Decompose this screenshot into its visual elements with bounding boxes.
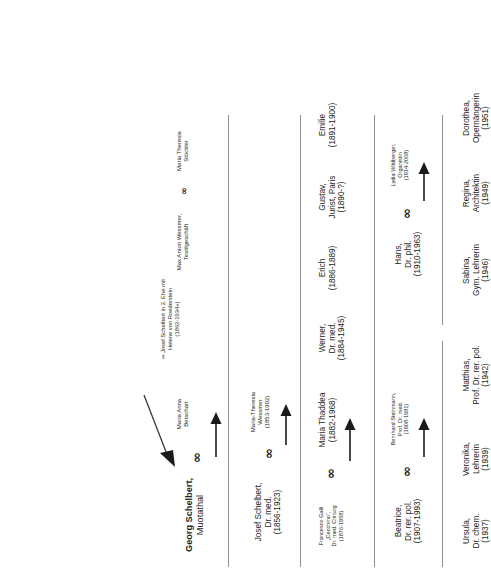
person-name: Maria Theresia: [176, 119, 183, 183]
person-role: Jurist, Paris: [328, 161, 338, 233]
descent-arrow-gen1-left: [210, 411, 220, 457]
person-maria-theresia-stoeckler: Maria Theresia Stöckler: [176, 119, 190, 183]
person-name: Lydia Wildberger,: [390, 127, 397, 203]
person-hans: Hans, Dr. phil. (1910-1963): [394, 223, 423, 285]
marriage-symbol-josef-mariatheresia: ∞: [262, 448, 275, 459]
person-role: Prof. Dr. med.: [397, 377, 404, 461]
note-line-1: ∞ Josef Schelbert in 2. Ehe mit: [160, 239, 167, 399]
person-name: Werner,: [318, 305, 328, 371]
person-name: Francesco Galli: [318, 483, 325, 569]
person-dates: (1907-1993): [413, 481, 423, 561]
generation-divider-4-right: [442, 115, 443, 325]
marriage-symbol-max-maria: ∞: [180, 188, 189, 196]
person-name: Ursula,: [462, 497, 472, 565]
person-dates: (1937): [481, 497, 491, 565]
person-dates: (1949): [481, 157, 491, 229]
person-role: Wessmer: [257, 381, 264, 443]
person-name: Emilie: [318, 89, 328, 161]
descent-arrow-gen4-left: [418, 417, 428, 457]
generation-divider-2: [300, 115, 301, 567]
person-dates: (1876-1958): [338, 483, 345, 569]
person-dates: (1856-1923): [273, 467, 283, 557]
marriage-symbol-francesco-mariathaddea: ∞: [324, 468, 337, 479]
person-name: Sabina,: [462, 227, 472, 313]
person-regina: Regina, Architektin (1949): [462, 157, 491, 229]
person-name: Dorothea,: [462, 75, 472, 161]
person-dates: (1890-?): [337, 161, 347, 233]
person-francesco-galli: Francesco Galli „Cecchino“, Dr. med. Chi…: [318, 483, 344, 569]
person-dates: (1914-2008): [403, 127, 410, 203]
descent-arrow-gen3: [344, 417, 354, 461]
descent-arrow-gen4-right: [418, 161, 428, 201]
generation-divider-4-left: [442, 341, 443, 567]
person-role: Organistin: [397, 127, 404, 203]
person-dates: (1891-1900): [328, 89, 338, 161]
descent-arrow-gen2: [280, 403, 290, 445]
second-marriage-pointer: [142, 389, 178, 469]
person-dates: (1853-1902): [264, 381, 271, 443]
person-bernhard-steinmann: Bernhard Steinmann, Prof. Dr. med. (1908…: [390, 377, 410, 461]
person-dates: (1942): [481, 327, 491, 423]
person-name: Hans,: [394, 223, 404, 285]
person-josef-schelbert: Josef Schelbert, Dr. med. (1856-1923): [254, 467, 283, 557]
person-role: Dr. med.: [328, 305, 338, 371]
person-role: Dr. med. Chirurg: [331, 483, 338, 569]
person-dates: (1951): [481, 75, 491, 161]
generation-divider-3: [374, 115, 375, 567]
person-role: Betschart: [183, 381, 190, 447]
person-name: Matthias,: [462, 327, 472, 423]
person-name: Bernhard Steinmann,: [390, 377, 397, 461]
note-second-marriage: ∞ Josef Schelbert in 2. Ehe mit Helene v…: [160, 239, 182, 399]
person-role: Dr. chem.: [472, 497, 482, 565]
person-name: Georg Schelbert,: [184, 467, 195, 563]
person-name: Josef Schelbert,: [254, 467, 264, 557]
person-role: Lehrerin: [472, 423, 482, 495]
person-role: Opernängerin: [472, 75, 482, 161]
person-role: Prof. Dr. rer. pol.: [472, 327, 482, 423]
person-emilie: Emilie (1891-1900): [318, 89, 337, 161]
person-beatrice: Beatrice, Dr. rer. pol. (1907-1993): [394, 481, 423, 561]
person-role: Dr. phil.: [404, 223, 414, 285]
person-name: Gustav,: [318, 161, 328, 233]
person-matthias: Matthias, Prof. Dr. rer. pol. (1942): [462, 327, 491, 423]
person-dates: (1886-1889): [328, 235, 338, 301]
marriage-symbol-hans-lydia: ∞: [400, 208, 413, 219]
person-dates: (1946): [481, 227, 491, 313]
person-dates: (1910-1963): [413, 223, 423, 285]
person-name: Maria Thaddea: [318, 377, 328, 463]
person-name: Beatrice,: [394, 481, 404, 561]
person-erich: Erich (1886-1889): [318, 235, 337, 301]
person-dates: (1882-1968): [328, 377, 338, 463]
note-line-3: (1862-1934+): [174, 239, 181, 399]
person-maria-thaddea: Maria Thaddea (1882-1968): [318, 377, 337, 463]
person-nickname: „Cecchino“,: [325, 483, 332, 569]
generation-divider-1: [228, 115, 229, 567]
person-role: Gym. Lehrerin: [472, 227, 482, 313]
person-veronika: Veronika, Lehrerin (1939): [462, 423, 491, 495]
person-ursula: Ursula, Dr. chem. (1937): [462, 497, 491, 565]
person-dates: (1884-1945): [337, 305, 347, 371]
person-werner: Werner, Dr. med. (1884-1945): [318, 305, 347, 371]
person-name: Erich: [318, 235, 328, 301]
person-role: Textilgeschäft: [183, 198, 190, 286]
person-maria-theresia-wessmer: Maria-Theresia Wessmer (1853-1902): [250, 381, 271, 443]
person-role: Stöckler: [183, 119, 190, 183]
marriage-symbol-bernhard-beatrice: ∞: [400, 466, 413, 477]
marriage-symbol-georg-maria: ∞: [190, 452, 203, 463]
person-name: Regina,: [462, 157, 472, 229]
note-line-2: Helene von Roederstein: [167, 239, 174, 399]
person-role: Architektin: [472, 157, 482, 229]
person-name: Maria-Theresia: [250, 381, 257, 443]
person-role: Dr. rer. pol.: [404, 481, 414, 561]
person-sabina: Sabina, Gym. Lehrerin (1946): [462, 227, 491, 313]
person-gustav: Gustav, Jurist, Paris (1890-?): [318, 161, 347, 233]
person-role: Dr. med.: [264, 467, 274, 557]
person-dates: (1939): [481, 423, 491, 495]
person-georg-schelbert: Georg Schelbert, Muotathal: [184, 467, 206, 563]
person-dorothea: Dorothea, Opernängerin (1951): [462, 75, 491, 161]
person-role: Muotathal: [195, 467, 206, 563]
person-name: Veronika,: [462, 423, 472, 495]
person-dates: (1908-1981): [403, 377, 410, 461]
